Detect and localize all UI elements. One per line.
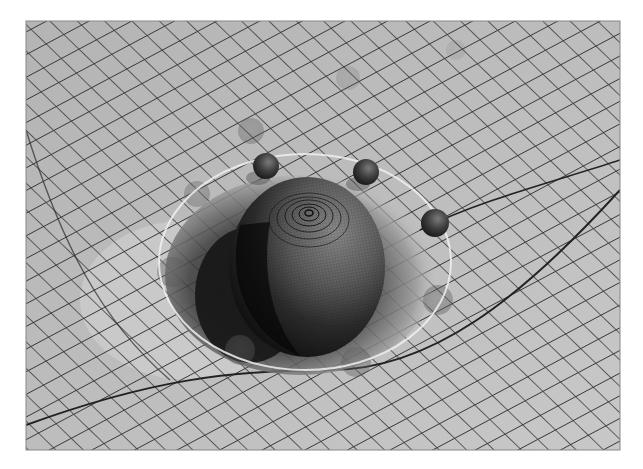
orbiting-sphere (253, 153, 279, 179)
ghost-sphere (184, 181, 210, 207)
ghost-sphere (341, 347, 371, 377)
ghost-sphere (336, 66, 360, 90)
ghost-sphere (423, 285, 453, 315)
rendered-frame (26, 21, 620, 450)
orbiting-sphere (421, 209, 449, 237)
ghost-sphere (238, 118, 264, 144)
ghost-sphere (225, 335, 255, 365)
spacetime-illustration (0, 0, 643, 469)
central-mass (229, 177, 385, 357)
ghost-sphere (446, 40, 466, 60)
orbiting-sphere (353, 159, 379, 185)
